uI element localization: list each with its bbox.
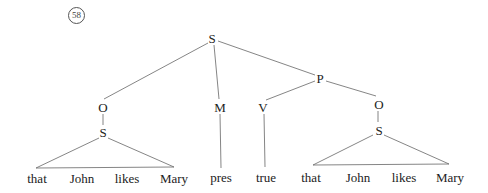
node-right-s: S [375, 124, 382, 137]
node-right-o: O [374, 98, 383, 111]
word-left-john: John [70, 172, 95, 185]
word-left-that: that [27, 172, 47, 185]
word-right-likes: likes [392, 171, 417, 184]
node-root-s: S [208, 32, 215, 45]
word-true: true [256, 171, 276, 184]
word-pres: pres [210, 171, 232, 184]
node-left-s: S [99, 126, 106, 139]
node-v: V [258, 101, 267, 114]
word-right-that: that [301, 171, 321, 184]
word-left-likes: likes [115, 172, 140, 185]
node-p: P [316, 72, 323, 85]
node-m: M [214, 101, 226, 114]
node-left-o: O [98, 101, 107, 114]
word-right-mary: Mary [436, 171, 464, 184]
word-left-mary: Mary [160, 172, 188, 185]
tree-edges [0, 0, 488, 193]
word-right-john: John [346, 171, 371, 184]
